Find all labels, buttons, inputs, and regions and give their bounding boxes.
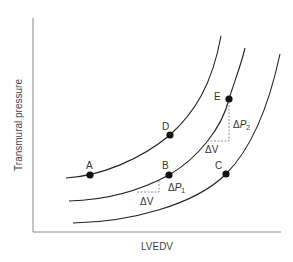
x-axis-label: LVEDV [141, 241, 173, 252]
delta-v2-label: ΔV [205, 144, 219, 155]
pressure-volume-diagram: Transmural pressure LVEDV A B C D E ΔP1 … [0, 0, 293, 262]
delta-p2-line [207, 100, 229, 141]
delta-p2-label: ΔP2 [233, 119, 250, 131]
y-axis-label: Transmural pressure [13, 79, 24, 171]
delta-v1-line [137, 181, 159, 192]
delta-p1-label: ΔP1 [168, 182, 185, 194]
point-label-d: D [162, 121, 169, 132]
point-d [166, 131, 173, 138]
point-b [165, 171, 172, 178]
point-c [222, 170, 229, 177]
point-label-a: A [86, 160, 93, 171]
middle-curve [69, 48, 245, 201]
point-a [86, 171, 93, 178]
point-label-e: E [214, 91, 221, 102]
point-label-c: C [215, 160, 222, 171]
point-label-b: B [162, 160, 169, 171]
delta-v1-label: ΔV [140, 196, 154, 207]
point-e [225, 95, 232, 102]
left-curve [66, 36, 221, 178]
